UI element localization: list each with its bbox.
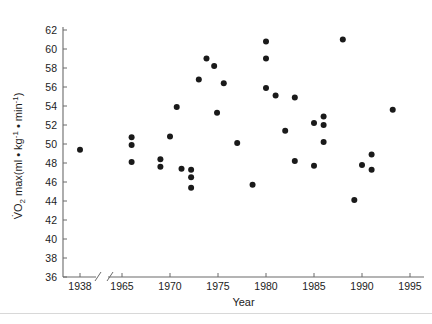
scatter-plot-figure: 3638404244464850525456586062 19381965197… — [0, 0, 432, 324]
data-point — [157, 164, 163, 170]
data-point — [250, 182, 256, 188]
y-tick-label: 46 — [45, 176, 57, 188]
data-point — [273, 93, 279, 99]
data-point — [174, 104, 180, 110]
y-tick-label: 58 — [45, 62, 57, 74]
data-points — [77, 37, 396, 204]
x-tick-label: 1980 — [254, 280, 278, 292]
data-point — [129, 159, 135, 165]
y-tick-label: 40 — [45, 233, 57, 245]
data-point — [188, 185, 194, 191]
data-point — [157, 156, 163, 162]
x-axis-title: Year — [232, 296, 255, 308]
data-point — [359, 162, 365, 168]
y-tick-label: 56 — [45, 81, 57, 93]
data-point — [234, 140, 240, 146]
data-point — [214, 110, 220, 116]
x-tick-label: 1965 — [110, 280, 134, 292]
y-tick-label: 42 — [45, 214, 57, 226]
data-point — [292, 94, 298, 100]
data-point — [321, 113, 327, 119]
y-tick-label: 62 — [45, 24, 57, 36]
data-point — [167, 133, 173, 139]
y-axis: 3638404244464850525456586062 — [45, 24, 67, 283]
data-point — [321, 139, 327, 145]
data-point — [351, 197, 357, 203]
x-tick-label: 1938 — [68, 280, 92, 292]
data-point — [390, 107, 396, 113]
x-tick-label: 1990 — [350, 280, 374, 292]
data-point — [321, 122, 327, 128]
data-point — [263, 38, 269, 44]
data-point — [188, 167, 194, 173]
data-point — [292, 158, 298, 164]
y-tick-label: 44 — [45, 195, 57, 207]
x-tick-label: 1975 — [206, 280, 230, 292]
data-point — [129, 134, 135, 140]
y-tick-label: 36 — [45, 271, 57, 283]
y-tick-label: 48 — [45, 157, 57, 169]
data-point — [311, 120, 317, 126]
data-point — [311, 163, 317, 169]
data-point — [77, 147, 83, 153]
footer-band — [0, 313, 432, 324]
y-tick-label: 50 — [45, 138, 57, 150]
data-point — [263, 85, 269, 91]
data-point — [340, 37, 346, 43]
x-tick-label: 1970 — [158, 280, 182, 292]
data-point — [179, 166, 185, 172]
data-point — [129, 142, 135, 148]
plot-canvas: 3638404244464850525456586062 19381965197… — [0, 0, 432, 324]
data-point — [263, 56, 269, 62]
data-point — [282, 128, 288, 134]
y-tick-label: 38 — [45, 252, 57, 264]
y-tick-label: 60 — [45, 43, 57, 55]
data-point — [369, 151, 375, 157]
x-tick-label: 1995 — [398, 280, 422, 292]
data-point — [188, 174, 194, 180]
data-point — [221, 80, 227, 86]
data-point — [196, 76, 202, 82]
x-tick-label: 1985 — [302, 280, 326, 292]
y-axis-title: V̇O2 max(ml • kg-1 • min-1) — [11, 93, 27, 220]
data-point — [369, 167, 375, 173]
x-axis: 19381965197019751980198519901995 — [63, 272, 424, 292]
data-point — [211, 63, 217, 69]
data-point — [203, 56, 209, 62]
y-tick-label: 52 — [45, 119, 57, 131]
y-tick-label: 54 — [45, 100, 57, 112]
